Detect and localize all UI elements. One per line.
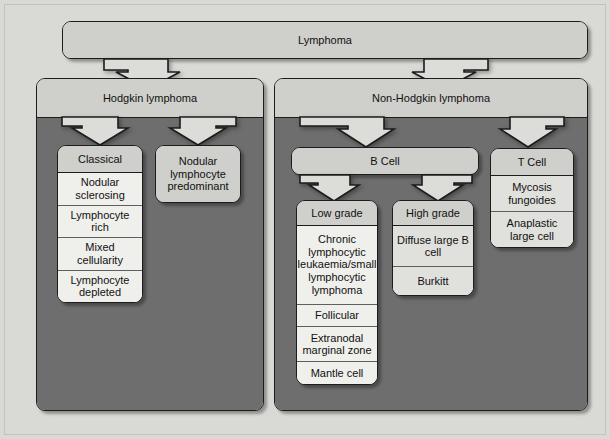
list-item[interactable]: Mycosis fungoides xyxy=(491,176,573,211)
node-nodular-lymphocyte-predominant[interactable]: Nodular lymphocyte predominant xyxy=(155,145,241,203)
node-lymphoma[interactable]: Lymphoma xyxy=(62,21,588,59)
low-grade-subtype-list: Chronic lymphocytic leukaemia/small lymp… xyxy=(297,225,377,384)
list-item[interactable]: Mixed cellularity xyxy=(58,237,142,270)
list-item[interactable]: Follicular xyxy=(297,304,377,327)
node-high-grade-label: High grade xyxy=(393,201,473,225)
list-item[interactable]: Lymphocyte depleted xyxy=(58,270,142,303)
t-cell-subtype-list: Mycosis fungoides Anaplastic large cell xyxy=(491,175,573,247)
node-classical[interactable]: Classical Nodular sclerosing Lymphocyte … xyxy=(57,145,143,303)
panel-hodgkin-lymphoma-label: Hodgkin lymphoma xyxy=(37,79,263,117)
node-high-grade[interactable]: High grade Diffuse large B cell Burkitt xyxy=(392,200,474,296)
node-t-cell[interactable]: T Cell Mycosis fungoides Anaplastic larg… xyxy=(490,148,574,248)
classical-subtype-list: Nodular sclerosing Lymphocyte rich Mixed… xyxy=(58,172,142,302)
list-item[interactable]: Chronic lymphocytic leukaemia/small lymp… xyxy=(297,226,377,304)
node-t-cell-label: T Cell xyxy=(491,149,573,175)
diagram-canvas: Lymphoma Hodgkin lymphoma Classical Nodu… xyxy=(0,0,610,439)
list-item[interactable]: Nodular sclerosing xyxy=(58,173,142,205)
list-item[interactable]: Burkitt xyxy=(393,266,473,295)
node-b-cell-label: B Cell xyxy=(292,148,478,174)
node-low-grade[interactable]: Low grade Chronic lymphocytic leukaemia/… xyxy=(296,200,378,385)
list-item[interactable]: Lymphocyte rich xyxy=(58,205,142,238)
panel-non-hodgkin-lymphoma-label: Non-Hodgkin lymphoma xyxy=(275,79,587,117)
node-b-cell[interactable]: B Cell xyxy=(291,147,479,175)
node-lymphoma-label: Lymphoma xyxy=(63,22,587,58)
node-classical-label: Classical xyxy=(58,146,142,172)
list-item[interactable]: Diffuse large B cell xyxy=(393,226,473,266)
list-item[interactable]: Anaplastic large cell xyxy=(491,211,573,247)
list-item[interactable]: Mantle cell xyxy=(297,361,377,384)
node-nodular-lymphocyte-predominant-label: Nodular lymphocyte predominant xyxy=(156,146,240,202)
high-grade-subtype-list: Diffuse large B cell Burkitt xyxy=(393,225,473,295)
list-item[interactable]: Extranodal marginal zone xyxy=(297,326,377,361)
node-low-grade-label: Low grade xyxy=(297,201,377,225)
